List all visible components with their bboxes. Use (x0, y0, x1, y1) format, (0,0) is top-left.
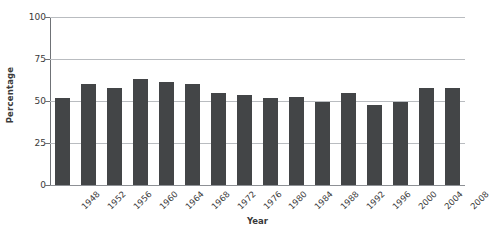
bar-1976 (237, 95, 252, 185)
y-tick-mark-100 (45, 17, 50, 18)
plot-area (50, 17, 465, 185)
x-tick-label-1988: 1988 (339, 189, 361, 211)
y-tick-mark-50 (45, 101, 50, 102)
x-tick-labels: 1948195219561960196419681972197619801984… (50, 186, 465, 218)
bar-1952 (81, 84, 96, 185)
x-tick-label-1952: 1952 (105, 189, 127, 211)
bar-2008 (445, 88, 460, 185)
x-tick-label-1964: 1964 (183, 189, 205, 211)
x-axis-title: Year (50, 216, 465, 226)
x-tick-label-1984: 1984 (313, 189, 335, 211)
x-tick-label-1996: 1996 (391, 189, 413, 211)
y-tick-label-0: 0 (4, 180, 46, 190)
bar-2000 (393, 102, 408, 185)
bars-layer (50, 17, 465, 185)
x-tick-label-1968: 1968 (209, 189, 231, 211)
x-tick-label-1956: 1956 (131, 189, 153, 211)
y-tick-label-100: 100 (4, 12, 46, 22)
y-tick-mark-75 (45, 59, 50, 60)
x-tick-label-1976: 1976 (261, 189, 283, 211)
bar-1996 (367, 105, 382, 185)
bar-1964 (159, 82, 174, 185)
x-tick-label-2004: 2004 (442, 189, 464, 211)
bar-2004 (419, 88, 434, 185)
bar-1992 (341, 93, 356, 185)
bar-1960 (133, 79, 148, 185)
y-tick-label-25: 25 (4, 138, 46, 148)
y-tick-label-75: 75 (4, 54, 46, 64)
bar-1956 (107, 88, 122, 185)
x-tick-label-2000: 2000 (416, 189, 438, 211)
x-tick-label-1948: 1948 (79, 189, 101, 211)
x-tick-label-1980: 1980 (287, 189, 309, 211)
bar-1948 (55, 98, 70, 185)
y-tick-mark-25 (45, 143, 50, 144)
x-tick-label-1972: 1972 (235, 189, 257, 211)
bar-1984 (289, 97, 304, 185)
bar-1972 (211, 93, 226, 185)
y-axis-title-text: Percentage (5, 67, 15, 124)
x-tick-label-1992: 1992 (365, 189, 387, 211)
y-tick-label-50: 50 (4, 96, 46, 106)
x-tick-label-2008: 2008 (468, 189, 490, 211)
bar-1968 (185, 84, 200, 185)
x-tick-label-1960: 1960 (157, 189, 179, 211)
bar-1988 (315, 102, 330, 185)
y-axis-title: Percentage (0, 0, 20, 190)
bar-1980 (263, 98, 278, 185)
